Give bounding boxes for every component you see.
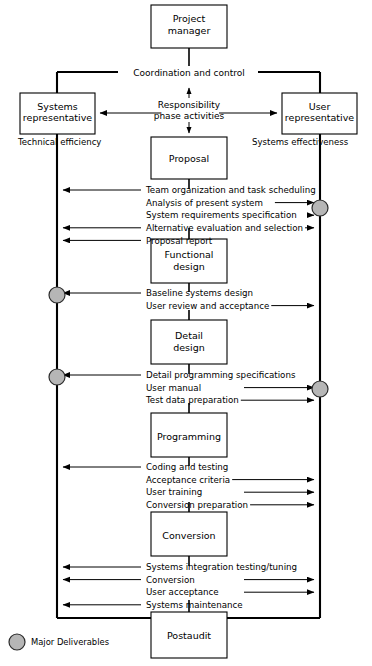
- activity-label: User training: [146, 487, 202, 497]
- node-user-representative[interactable]: User representative: [282, 93, 357, 134]
- activity-row: Conversion: [63, 575, 314, 585]
- user-representative-label-line2: representative: [285, 112, 354, 123]
- activity-row: Analysis of present system: [146, 198, 314, 208]
- proposal-label: Proposal: [169, 153, 209, 164]
- responsibility-label-line2: phase activities: [154, 111, 225, 121]
- activity-label: Systems maintenance: [146, 600, 243, 610]
- systems-representative-label-line1: Systems: [37, 101, 77, 112]
- activity-row: Conversion preparation: [146, 500, 314, 510]
- activity-label: User manual: [146, 383, 201, 393]
- activity-label: Analysis of present system: [146, 198, 263, 208]
- node-detail-design[interactable]: Detail design: [151, 320, 227, 364]
- activity-row: Systems integration testing/tuning: [63, 562, 297, 572]
- activity-row: User review and acceptance: [146, 301, 314, 311]
- activity-row: Proposal report: [63, 236, 213, 246]
- activity-row: Team organization and task scheduling: [63, 185, 316, 195]
- activity-label: Systems integration testing/tuning: [146, 562, 297, 572]
- postaudit-label: Postaudit: [167, 630, 211, 641]
- programming-label: Programming: [157, 431, 221, 442]
- node-programming[interactable]: Programming: [151, 413, 227, 457]
- activity-label: Proposal report: [146, 236, 213, 246]
- activity-label: Conversion: [146, 575, 195, 585]
- node-proposal[interactable]: Proposal: [151, 137, 227, 179]
- activity-label: Baseline systems design: [146, 288, 253, 298]
- conversion-label: Conversion: [162, 530, 215, 541]
- responsibility-label-line1: Responsibility: [158, 100, 221, 110]
- node-systems-representative[interactable]: Systems representative: [20, 93, 95, 134]
- flow-diagram: Project manager Coordination and control…: [0, 0, 372, 666]
- detail-design-label-line1: Detail: [175, 330, 203, 341]
- deliverable-marker: [312, 200, 328, 216]
- coordination-and-control-label: Coordination and control: [133, 68, 244, 78]
- deliverable-marker: [49, 287, 65, 303]
- systems-effectiveness-label: Systems effectiveness: [252, 137, 349, 147]
- activity-label: Acceptance criteria: [146, 475, 230, 485]
- functional-design-label-line2: design: [173, 261, 205, 272]
- legend: Major Deliverables: [9, 634, 109, 650]
- figure-canvas: Project manager Coordination and control…: [0, 0, 372, 666]
- activity-row: Acceptance criteria: [146, 475, 314, 485]
- activity-label: User acceptance: [146, 587, 219, 597]
- systems-representative-label-line2: representative: [23, 112, 92, 123]
- activity-row: Test data preparation: [145, 395, 314, 405]
- deliverable-marker: [49, 369, 65, 385]
- legend-deliverable-icon: [9, 634, 25, 650]
- activity-row: Alternative evaluation and selection: [63, 223, 314, 233]
- activity-row: Baseline systems design: [63, 288, 253, 298]
- technical-efficiency-label: Technical efficiency: [17, 137, 101, 147]
- project-manager-label-line1: Project: [173, 13, 206, 24]
- node-project-manager[interactable]: Project manager: [151, 5, 227, 48]
- user-representative-label-line1: User: [309, 101, 331, 112]
- activity-row: User manual: [146, 383, 314, 393]
- activity-row: System requirements specification: [146, 210, 314, 220]
- activity-row: User acceptance: [146, 587, 314, 597]
- activity-label: Conversion preparation: [146, 500, 248, 510]
- node-postaudit[interactable]: Postaudit: [151, 612, 227, 658]
- activity-row: Detail programming specifications: [63, 370, 296, 380]
- activity-label: System requirements specification: [146, 210, 297, 220]
- activity-label: Test data preparation: [145, 395, 239, 405]
- deliverable-marker: [312, 381, 328, 397]
- activity-label: Detail programming specifications: [146, 370, 296, 380]
- activity-row: Coding and testing: [63, 462, 228, 472]
- activity-label: Alternative evaluation and selection: [146, 223, 303, 233]
- activity-label: Team organization and task scheduling: [145, 185, 316, 195]
- project-manager-label-line2: manager: [168, 25, 211, 36]
- activity-row: User training: [146, 487, 314, 497]
- legend-label: Major Deliverables: [31, 637, 109, 647]
- node-conversion[interactable]: Conversion: [151, 512, 227, 556]
- detail-design-label-line2: design: [173, 342, 205, 353]
- activity-label: User review and acceptance: [146, 301, 269, 311]
- functional-design-label-line1: Functional: [165, 249, 214, 260]
- activity-label: Coding and testing: [146, 462, 228, 472]
- activity-row: Systems maintenance: [63, 600, 243, 610]
